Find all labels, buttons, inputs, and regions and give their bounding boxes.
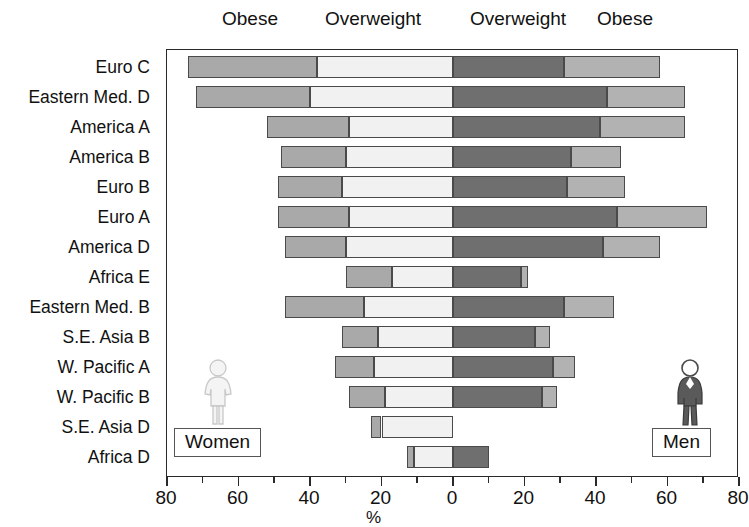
segment-women-overweight: [382, 416, 454, 438]
male-figure-icon: [668, 358, 712, 428]
x-axis-tick: [166, 477, 168, 486]
category-label: W. Pacific B: [0, 382, 158, 412]
bar-row: [167, 323, 737, 353]
header-men-obese: Obese: [597, 8, 653, 30]
x-axis-title: %: [0, 508, 747, 527]
x-axis-tick-label: 0: [447, 487, 458, 509]
legend-men: Men: [652, 428, 711, 457]
segment-men-overweight: [453, 296, 564, 318]
x-axis-tick: [595, 477, 597, 486]
segment-men-obese: [617, 206, 706, 228]
segment-men-overweight: [453, 116, 600, 138]
x-axis-tick: [524, 477, 526, 486]
bar-row: [167, 353, 737, 383]
segment-men-overweight: [453, 86, 607, 108]
bar-row: [167, 143, 737, 173]
segment-women-overweight: [364, 296, 453, 318]
legend-women: Women: [174, 428, 261, 457]
segment-women-overweight: [349, 206, 453, 228]
segment-men-overweight: [453, 266, 521, 288]
x-axis-minor-tick: [488, 477, 489, 483]
category-label: Africa D: [0, 442, 158, 472]
x-axis-tick-label: 80: [727, 487, 748, 509]
x-axis-minor-tick: [345, 477, 346, 483]
x-axis-minor-tick: [416, 477, 417, 483]
segment-women-overweight: [392, 266, 453, 288]
x-axis-minor-tick: [273, 477, 274, 483]
segment-men-obese: [521, 266, 528, 288]
x-axis-tick-label: 60: [227, 487, 248, 509]
segment-women-obese: [349, 386, 385, 408]
x-axis-minor-tick: [559, 477, 560, 483]
segment-women-overweight: [349, 116, 453, 138]
category-label: W. Pacific A: [0, 352, 158, 382]
segment-women-overweight: [385, 386, 453, 408]
header-men-overweight: Overweight: [470, 8, 566, 30]
segment-women-obese: [196, 86, 310, 108]
segment-women-overweight: [342, 176, 453, 198]
x-axis-tick-label: 60: [656, 487, 677, 509]
segment-women-obese: [278, 176, 342, 198]
segment-women-overweight: [346, 146, 453, 168]
segment-men-overweight: [453, 386, 542, 408]
x-axis-tick-label: 20: [513, 487, 534, 509]
segment-women-overweight: [374, 356, 453, 378]
x-axis-minor-tick: [202, 477, 203, 483]
segment-men-obese: [603, 236, 660, 258]
segment-women-overweight: [346, 236, 453, 258]
female-figure-icon: [196, 358, 240, 428]
plot-area: [166, 49, 738, 477]
segment-men-obese: [553, 356, 574, 378]
segment-women-obese: [342, 326, 378, 348]
header-women-overweight: Overweight: [325, 8, 421, 30]
segment-men-obese: [571, 146, 621, 168]
category-label: S.E. Asia D: [0, 412, 158, 442]
bar-row: [167, 263, 737, 293]
x-axis-minor-tick: [631, 477, 632, 483]
segment-women-obese: [346, 266, 392, 288]
category-label: Euro C: [0, 52, 158, 82]
x-axis-tick-label: 80: [155, 487, 176, 509]
segment-women-obese: [278, 206, 350, 228]
segment-women-obese: [407, 446, 414, 468]
segment-men-overweight: [453, 56, 564, 78]
category-label: America D: [0, 232, 158, 262]
segment-women-overweight: [317, 56, 453, 78]
segment-women-obese: [285, 236, 346, 258]
x-axis-tick-label: 40: [584, 487, 605, 509]
segment-women-obese: [335, 356, 374, 378]
category-label: Africa E: [0, 262, 158, 292]
x-axis-tick: [309, 477, 311, 486]
segment-men-obese: [564, 296, 614, 318]
x-axis-tick-label: 20: [370, 487, 391, 509]
category-axis-labels: Euro CEastern Med. DAmerica AAmerica BEu…: [0, 52, 158, 472]
segment-men-overweight: [453, 146, 571, 168]
segment-women-obese: [267, 116, 349, 138]
category-label: Eastern Med. D: [0, 82, 158, 112]
header-women-obese: Obese: [222, 8, 278, 30]
segment-women-obese: [281, 146, 345, 168]
category-label: Euro A: [0, 202, 158, 232]
x-axis-tick: [238, 477, 240, 486]
segment-women-overweight: [310, 86, 453, 108]
bar-row: [167, 233, 737, 263]
segment-men-obese: [567, 176, 624, 198]
x-axis-tick: [381, 477, 383, 486]
segment-men-obese: [607, 86, 686, 108]
segment-men-obese: [542, 386, 556, 408]
segment-women-obese: [188, 56, 317, 78]
segment-men-obese: [535, 326, 549, 348]
bar-row: [167, 53, 737, 83]
x-axis-tick: [452, 477, 454, 486]
x-axis: 80604020020406080: [166, 477, 738, 478]
bar-row: [167, 383, 737, 413]
segment-women-obese: [371, 416, 382, 438]
segment-men-overweight: [453, 356, 553, 378]
category-label: Eastern Med. B: [0, 292, 158, 322]
bar-row: [167, 83, 737, 113]
segment-men-overweight: [453, 326, 535, 348]
segment-men-overweight: [453, 236, 603, 258]
segment-men-overweight: [453, 446, 489, 468]
segment-men-overweight: [453, 176, 567, 198]
